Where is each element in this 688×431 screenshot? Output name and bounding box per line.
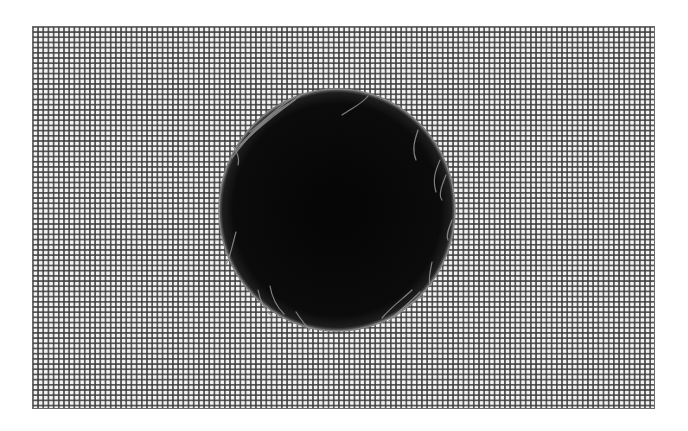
- disk-body: [219, 89, 455, 331]
- black-disk: [0, 0, 688, 431]
- image-stage: [0, 0, 688, 431]
